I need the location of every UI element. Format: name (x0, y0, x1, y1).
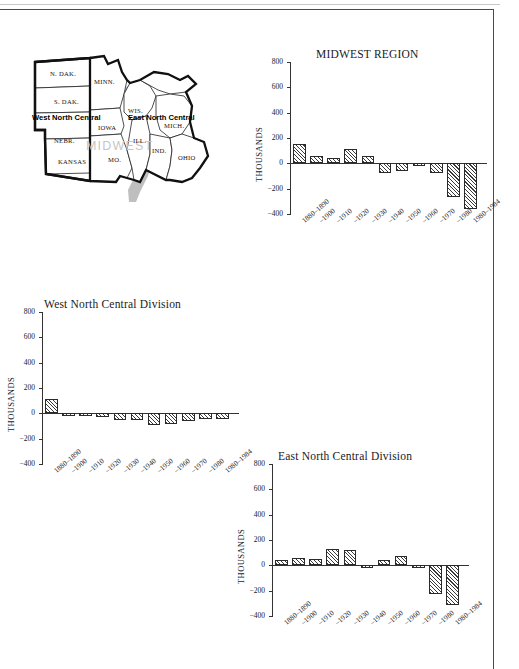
y-tick (287, 214, 291, 215)
y-tick (269, 540, 273, 541)
y-tick-label: −200 (9, 434, 35, 443)
bar (293, 144, 306, 163)
y-tick (39, 464, 43, 465)
y-tick-label: 200 (9, 383, 35, 392)
bar (148, 413, 161, 425)
x-tick-label: –1930 (369, 206, 389, 225)
bar (344, 550, 357, 565)
bar (275, 560, 288, 565)
bar (362, 156, 375, 163)
x-tick-label: –1910 (316, 608, 336, 627)
x-tick-label: –1940 (138, 456, 158, 475)
state-label-ohio: OHIO (178, 154, 196, 161)
y-tick (39, 337, 43, 338)
state-label-mo: MO. (108, 156, 121, 163)
y-tick (269, 464, 273, 465)
bar (327, 158, 340, 164)
bar (413, 163, 426, 165)
bar (310, 156, 323, 163)
y-tick-label: −200 (257, 184, 283, 193)
state-label-minn: MINN. (94, 78, 115, 85)
y-tick (269, 489, 273, 490)
y-tick-label: 0 (257, 158, 283, 167)
chart-east-north-central-division: East North Central Division THOUSANDS 80… (238, 450, 470, 650)
bar (45, 399, 58, 413)
x-tick-label: –1960 (420, 206, 440, 225)
midwest-region-map: MIDWEST N. DAK. MINN. S. DAK. WIS. MICH.… (28, 50, 258, 215)
y-tick (39, 388, 43, 389)
x-tick-label: –1930 (121, 456, 141, 475)
x-tick-label: –1960 (402, 608, 422, 627)
bar (379, 163, 392, 173)
region-label-west-north-central: West North Central (32, 113, 101, 122)
x-tick-label: –1920 (103, 456, 123, 475)
bar (292, 558, 305, 566)
x-tick-label: –1910 (86, 456, 106, 475)
y-tick-label: 0 (239, 560, 265, 569)
y-tick (287, 62, 291, 63)
bar (182, 413, 195, 421)
bar (344, 149, 357, 163)
bar (199, 413, 212, 419)
y-tick (269, 616, 273, 617)
bar (447, 163, 460, 197)
bar (326, 549, 339, 565)
bar (131, 413, 144, 420)
bar (430, 163, 443, 173)
x-tick-label: –1980 (436, 608, 456, 627)
y-tick-label: 0 (9, 408, 35, 417)
y-tick (39, 363, 43, 364)
bar (165, 413, 178, 424)
bar (96, 413, 109, 417)
y-tick (269, 515, 273, 516)
y-tick-label: −200 (239, 586, 265, 595)
y-tick (269, 591, 273, 592)
state-label-kansas: KANSAS (58, 158, 86, 165)
bar (62, 413, 75, 415)
bar (395, 556, 408, 566)
chart-midwest-region: MIDWEST REGION THOUSANDS 8006004002000−2… (256, 48, 488, 248)
x-tick-label: –1920 (351, 206, 371, 225)
x-tick-label: –1940 (368, 608, 388, 627)
chart-title: East North Central Division (278, 450, 412, 462)
x-tick-label: –1920 (333, 608, 353, 627)
x-tick-label: –1950 (155, 456, 175, 475)
chart-title: West North Central Division (44, 298, 181, 310)
bar (114, 413, 127, 420)
bar (446, 565, 459, 605)
bar (396, 163, 409, 171)
y-tick-label: −400 (9, 459, 35, 468)
state-label-mich: MICH. (164, 122, 184, 129)
y-tick-label: −400 (239, 611, 265, 620)
bar (216, 413, 229, 419)
state-label-ill: ILL. (133, 137, 146, 144)
x-tick-label: –1930 (351, 608, 371, 627)
state-label-ind: IND. (152, 147, 167, 154)
y-tick-label: 200 (257, 133, 283, 142)
bar (429, 565, 442, 594)
bar (361, 565, 374, 567)
bar (378, 560, 391, 565)
chart-title: MIDWEST REGION (316, 48, 419, 60)
x-tick-label: –1980 (454, 206, 474, 225)
state-label-ndak: N. DAK. (50, 70, 76, 77)
y-tick-label: 800 (9, 307, 35, 316)
y-tick-label: 600 (9, 332, 35, 341)
bar (412, 565, 425, 567)
chart-west-north-central-division: West North Central Division THOUSANDS 80… (8, 298, 240, 498)
plot-area: 8006004002000−200−4001880–1890–1900–1910… (272, 464, 460, 616)
y-tick-label: 800 (239, 459, 265, 468)
y-tick-label: 400 (9, 358, 35, 367)
plot-area: 8006004002000−200−4001880–1890–1900–1910… (42, 312, 230, 464)
bar (79, 413, 92, 415)
x-tick-label: –1950 (385, 608, 405, 627)
y-tick-label: 600 (257, 82, 283, 91)
x-tick-label: –1960 (172, 456, 192, 475)
page-top-rule (0, 4, 500, 5)
y-tick-label: 200 (239, 535, 265, 544)
x-tick-label: –1970 (419, 608, 439, 627)
y-tick-label: 400 (257, 108, 283, 117)
y-tick (39, 439, 43, 440)
x-tick-label: –1970 (437, 206, 457, 225)
bar (464, 163, 477, 209)
